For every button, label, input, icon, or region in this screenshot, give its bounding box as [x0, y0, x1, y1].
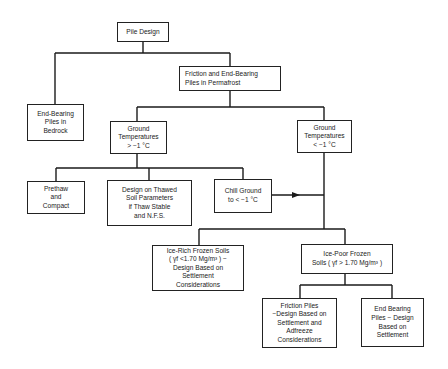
node-friction-end-bearing-permafrost: Friction and End-Bearing Piles in Permaf…: [179, 66, 281, 91]
node-label: Ice-Rich Frozen Soils ( γf <1.70 Mg/m³ )…: [167, 247, 230, 290]
node-label: Friction and End-Bearing Piles in Permaf…: [185, 70, 258, 87]
node-label: End-Bearing Piles in Bedrock: [37, 110, 74, 136]
node-ground-temp-warm: Ground Temperatures > −1 °C: [110, 121, 167, 154]
node-friction-piles: Friction Piles −Design Based on Settleme…: [262, 298, 337, 348]
node-ice-poor: Ice-Poor Frozen Soils ( γf > 1.70 Mg/m³ …: [301, 244, 393, 274]
node-ice-rich: Ice-Rich Frozen Soils ( γf <1.70 Mg/m³ )…: [152, 245, 244, 291]
node-label: Ice-Poor Frozen Soils ( γf > 1.70 Mg/m³ …: [312, 250, 382, 267]
node-end-bearing-settlement: End Bearing Piles − Design Based on Sett…: [361, 298, 424, 347]
node-chill-ground: Chill Ground to < −1 °C: [214, 179, 272, 213]
node-end-bearing-bedrock: End-Bearing Piles in Bedrock: [27, 104, 84, 141]
node-design-thawed: Design on Thawed Soil Parameters if Thaw…: [107, 180, 192, 226]
node-label: Chill Ground to < −1 °C: [225, 187, 262, 204]
node-label: Prethaw and Compact: [43, 185, 69, 211]
node-ground-temp-cold: Ground Temperatures < −1 °C: [297, 120, 352, 153]
node-label: End Bearing Piles − Design Based on Sett…: [371, 305, 413, 339]
node-prethaw: Prethaw and Compact: [27, 181, 85, 214]
node-label: Friction Piles −Design Based on Settleme…: [272, 302, 326, 345]
node-label: Pile Design: [126, 28, 159, 37]
node-label: Ground Temperatures < −1 °C: [304, 124, 344, 150]
arrowhead-icon: [292, 192, 300, 198]
node-label: Design on Thawed Soil Parameters if Thaw…: [122, 186, 177, 220]
node-label: Ground Temperatures > −1 °C: [118, 125, 158, 151]
node-pile-design: Pile Design: [117, 22, 169, 42]
